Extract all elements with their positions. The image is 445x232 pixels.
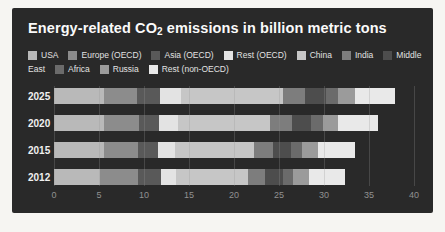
bar-segment-usa (54, 115, 104, 131)
legend-label: Asia (OECD) (164, 50, 213, 60)
bar-segment-rest-non-oecd (355, 88, 396, 104)
legend-swatch (297, 51, 306, 60)
bar-segment-india (248, 169, 265, 185)
bar-segment-russia (302, 142, 317, 158)
legend-label: USA (41, 50, 58, 60)
legend-item: Rest (OECD) (224, 50, 287, 60)
x-tick-label: 40 (409, 190, 419, 200)
legend-item: Asia (OECD) (151, 50, 213, 60)
plot-area: 2025202020152012 0510152025303540 (12, 84, 433, 209)
bar-segment-middle-east (265, 169, 282, 185)
stacked-bar (54, 169, 345, 185)
legend-swatch (28, 51, 37, 60)
x-tick-label: 10 (139, 190, 149, 200)
legend-label: Rest (OECD) (237, 50, 287, 60)
bar-segment-middle-east (305, 88, 326, 104)
bar-segment-europe-oecd (104, 115, 139, 131)
bar-segment-middle-east (273, 142, 291, 158)
bar-segment-usa (54, 142, 104, 158)
bar-segment-africa (311, 115, 323, 131)
bar-segment-rest-non-oecd (309, 169, 345, 185)
legend-item: Middle (383, 50, 421, 60)
legend-item: Rest (non-OECD) (149, 64, 229, 74)
legend-swatch (151, 51, 160, 60)
legend-item: Europe (OECD) (68, 50, 141, 60)
bar-segment-usa (54, 88, 104, 104)
bar-row-2025: 2025 (12, 88, 433, 104)
legend-label: East (28, 64, 45, 74)
chart-title: Energy-related CO2 emissions in billion … (28, 20, 387, 37)
x-tick-label: 5 (96, 190, 101, 200)
legend-label: Europe (OECD) (81, 50, 141, 60)
chart-title-prefix: Energy-related CO (28, 20, 157, 36)
bar-segment-china (176, 169, 248, 185)
legend-swatch (149, 65, 158, 74)
legend-label: China (310, 50, 332, 60)
legend-label: India (355, 50, 373, 60)
bar-segment-india (270, 115, 292, 131)
legend-item: China (297, 50, 332, 60)
bar-segment-middle-east (292, 115, 312, 131)
bar-row-2020: 2020 (12, 115, 433, 131)
bar-segment-rest-oecd (158, 142, 175, 158)
bar-segment-asia-oecd (138, 142, 159, 158)
bar-row-2015: 2015 (12, 142, 433, 158)
legend-item: USA (28, 50, 58, 60)
bar-segment-europe-oecd (100, 169, 138, 185)
x-tick-label: 30 (319, 190, 329, 200)
bar-segment-europe-oecd (104, 142, 138, 158)
bar-segment-africa (283, 169, 294, 185)
bar-segment-usa (54, 169, 100, 185)
stacked-bar (54, 115, 378, 131)
legend-label: Africa (68, 64, 90, 74)
stacked-bar (54, 88, 395, 104)
chart-title-suffix: emissions in billion metric tons (163, 20, 387, 36)
legend-row: EastAfricaRussiaRest (non-OECD) (28, 62, 432, 76)
x-tick-label: 35 (364, 190, 374, 200)
bar-segment-china (178, 115, 270, 131)
legend-swatch (55, 65, 64, 74)
legend-swatch (342, 51, 351, 60)
bar-segment-africa (326, 88, 339, 104)
bar-segment-russia (323, 115, 338, 131)
bar-row-2012: 2012 (12, 169, 433, 185)
bar-segment-india (283, 88, 306, 104)
bar-segment-china (175, 142, 253, 158)
legend-item: East (28, 64, 45, 74)
bar-segment-rest-non-oecd (318, 142, 356, 158)
bar-segment-russia (338, 88, 354, 104)
chart-panel: Energy-related CO2 emissions in billion … (12, 8, 433, 213)
bar-segment-india (254, 142, 273, 158)
bar-segment-europe-oecd (104, 88, 137, 104)
legend-swatch (383, 51, 392, 60)
bar-segment-asia-oecd (139, 115, 160, 131)
bar-segment-rest-oecd (159, 115, 178, 131)
legend-swatch (100, 65, 109, 74)
bar-segment-asia-oecd (137, 88, 160, 104)
legend: USAEurope (OECD)Asia (OECD)Rest (OECD)Ch… (28, 48, 432, 76)
bar-segment-china (181, 88, 283, 104)
legend-label: Rest (non-OECD) (162, 64, 229, 74)
bar-segment-africa (291, 142, 303, 158)
x-tick-label: 15 (184, 190, 194, 200)
bar-segment-rest-non-oecd (338, 115, 378, 131)
bar-segment-asia-oecd (138, 169, 161, 185)
bar-segment-russia (293, 169, 308, 185)
legend-item: Africa (55, 64, 90, 74)
bar-segment-rest-oecd (161, 169, 176, 185)
bar-rows: 2025202020152012 (12, 88, 433, 196)
legend-label: Russia (113, 64, 139, 74)
legend-row: USAEurope (OECD)Asia (OECD)Rest (OECD)Ch… (28, 48, 432, 62)
x-tick-label: 20 (229, 190, 239, 200)
legend-swatch (68, 51, 77, 60)
legend-label: Middle (396, 50, 421, 60)
stacked-bar (54, 142, 355, 158)
x-tick-label: 0 (51, 190, 56, 200)
year-label: 2020 (28, 118, 54, 129)
year-label: 2025 (28, 91, 54, 102)
legend-swatch (224, 51, 233, 60)
x-tick-label: 25 (274, 190, 284, 200)
legend-item: Russia (100, 64, 139, 74)
legend-item: India (342, 50, 373, 60)
year-label: 2012 (28, 172, 54, 183)
